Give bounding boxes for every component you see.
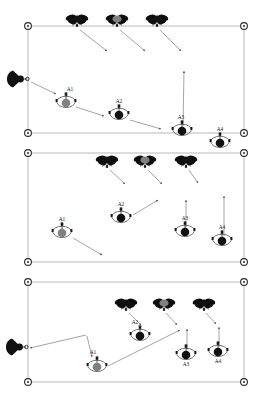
ground-robot-a1 (87, 356, 108, 371)
drone-marker-tag (116, 24, 118, 27)
trajectory-line[interactable] (30, 335, 86, 348)
robot-label-a4: A4 (217, 126, 224, 132)
traj-drone3-down[interactable] (189, 170, 198, 183)
panel-3: A1A2A3A4 (6, 279, 247, 386)
corner-dot (27, 152, 29, 154)
trajectory-line[interactable] (31, 82, 56, 94)
chassis-body (178, 127, 187, 136)
ground-robot-a1 (52, 222, 73, 237)
corner-top-right (241, 23, 248, 30)
wheel-right (228, 139, 230, 142)
drone-marker-tag (125, 308, 127, 311)
ground-robot-a3 (175, 221, 196, 236)
corner-dot (243, 152, 245, 154)
trajectory-line[interactable] (76, 107, 104, 116)
drone-3 (174, 154, 198, 167)
corner-dot (243, 281, 245, 283)
chassis-body (181, 228, 190, 237)
wheel-left (109, 111, 111, 114)
drone-body (102, 156, 111, 163)
traj-drone2-down[interactable] (120, 30, 145, 51)
corner-bottom-right (241, 130, 248, 137)
chassis-body (218, 237, 227, 246)
traj-drone2-down[interactable] (166, 313, 177, 325)
corner-dot (27, 25, 29, 27)
wheel-right (127, 111, 129, 114)
trajectory-line[interactable] (80, 30, 107, 51)
corner-top-right (241, 279, 248, 286)
traj-drone1-down[interactable] (110, 170, 125, 184)
radar-dish (6, 339, 28, 356)
traj-a1-to-a2[interactable] (76, 107, 104, 116)
wheel-left (175, 228, 177, 231)
trajectory-line[interactable] (130, 120, 161, 129)
chassis-body (93, 363, 102, 372)
traj-dish-to-a1[interactable] (31, 82, 56, 94)
corner-bottom-left (25, 130, 32, 137)
drone-marker-tag (156, 24, 158, 27)
chassis-body (117, 214, 126, 223)
drone-body (112, 15, 121, 22)
chassis-body (62, 99, 71, 108)
traj-drone2-down[interactable] (148, 170, 162, 184)
trajectory-line[interactable] (133, 200, 158, 215)
chassis-body (136, 332, 145, 341)
drone-3 (145, 13, 169, 26)
wheel-right (194, 351, 196, 354)
drone-marker-tag (163, 308, 165, 311)
drone-1 (114, 297, 138, 310)
traj-drone3-down[interactable] (206, 313, 216, 324)
corner-top-right (241, 150, 248, 157)
robot-marker-tag (96, 356, 99, 359)
arena-boundary-1 (28, 26, 244, 133)
chassis-body (182, 351, 191, 360)
ground-robot-a1 (56, 92, 77, 107)
trajectory-line[interactable] (189, 170, 198, 183)
corner-bottom-left (25, 379, 32, 386)
traj-drone3-down[interactable] (160, 30, 181, 51)
wheel-left (172, 127, 174, 130)
traj-a2-up-right[interactable] (133, 200, 158, 215)
corner-dot (27, 261, 29, 263)
drone-body (72, 15, 81, 22)
robot-label-a3: A3 (182, 215, 189, 221)
panel-1: A1A2A3A4 (7, 13, 247, 147)
trajectory-line[interactable] (166, 313, 177, 325)
trajectory-line[interactable] (148, 170, 162, 184)
drone-body (199, 299, 208, 306)
traj-waypoint-to-dish[interactable] (30, 335, 86, 349)
ground-robot-a3 (172, 120, 193, 135)
corner-top-left (25, 150, 32, 157)
corner-dot (27, 132, 29, 134)
robot-label-a4: A4 (215, 358, 222, 364)
robot-label-a3: A3 (183, 361, 190, 367)
trajectory-line[interactable] (120, 30, 145, 51)
traj-drone1-down[interactable] (80, 30, 107, 51)
ground-robot-a2 (111, 207, 132, 222)
robot-marker-tag (65, 92, 68, 95)
traj-a1-down-right[interactable] (73, 238, 102, 255)
trajectory-line[interactable] (73, 238, 102, 255)
trajectory-line[interactable] (206, 313, 216, 324)
trajectory-arrowhead (185, 200, 187, 202)
corner-bottom-right (241, 379, 248, 386)
chassis-body (58, 229, 67, 238)
corner-bottom-right (241, 259, 248, 266)
radar-dish (7, 71, 29, 88)
chassis-body (115, 111, 124, 120)
trajectory-line[interactable] (160, 30, 181, 51)
robot-label-a2: A2 (116, 98, 123, 104)
traj-a2-to-a3[interactable] (130, 120, 161, 129)
robot-label-a1: A1 (90, 349, 97, 355)
robot-marker-tag (120, 207, 123, 210)
robot-label-a2: A2 (118, 201, 125, 207)
drone-body (159, 299, 168, 306)
traj-a4-mast[interactable] (223, 196, 225, 236)
wheel-left (130, 332, 132, 335)
corner-dot (27, 281, 29, 283)
robot-label-a4: A4 (219, 224, 226, 230)
robot-label-a3: A3 (178, 114, 185, 120)
wheel-right (193, 228, 195, 231)
trajectory-line[interactable] (110, 170, 125, 184)
corner-dot (243, 25, 245, 27)
